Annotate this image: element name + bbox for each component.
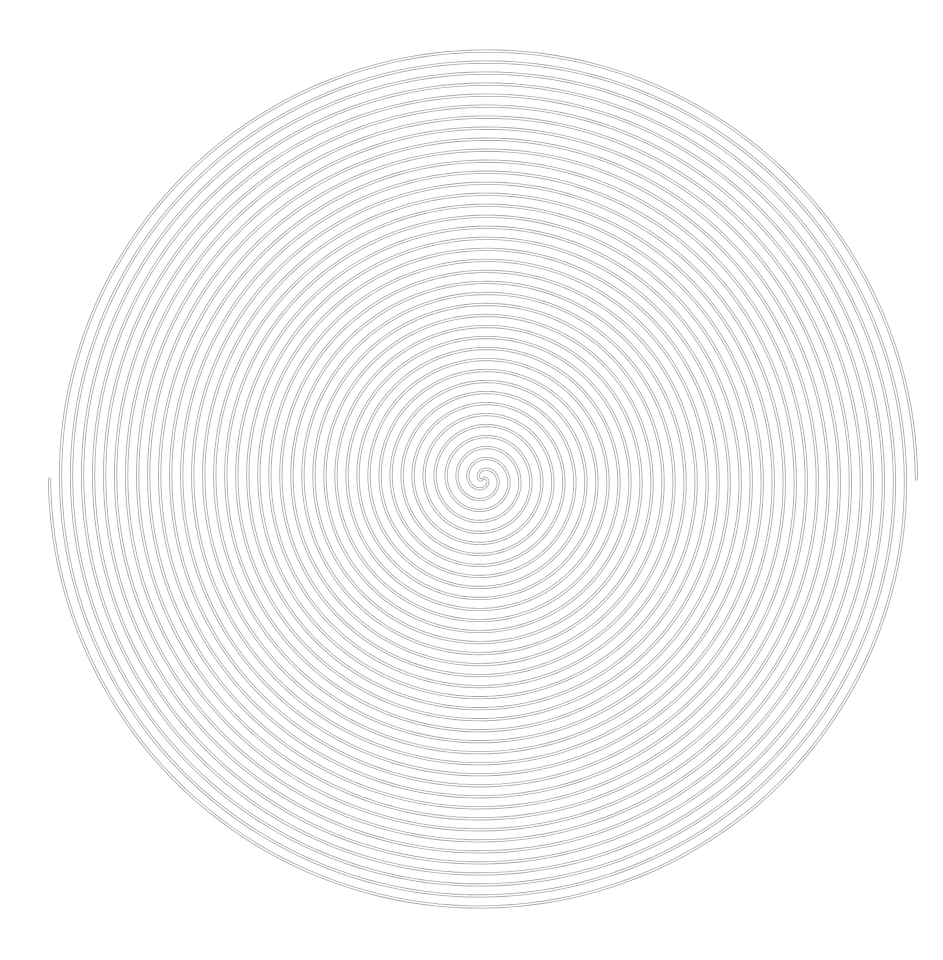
background (0, 0, 943, 960)
double-spiral-graphic (0, 0, 943, 960)
spiral-canvas (0, 0, 943, 960)
